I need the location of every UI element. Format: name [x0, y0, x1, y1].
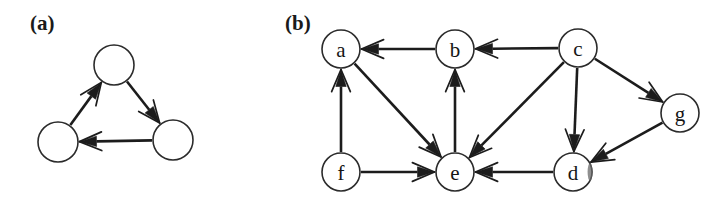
panel-b-node-e[interactable]: e	[436, 153, 474, 191]
scan-artifact	[588, 163, 593, 181]
node-circle[interactable]	[153, 120, 193, 160]
panel-b-node-b[interactable]: b	[436, 30, 474, 68]
node-label: f	[338, 161, 345, 185]
figure-background	[0, 0, 726, 206]
panel-b-node-d[interactable]: d	[554, 153, 592, 191]
panel-a-node-a-left[interactable]	[38, 122, 78, 162]
node-circle[interactable]	[94, 45, 134, 85]
node-label: b	[450, 38, 461, 62]
panel-b-node-c[interactable]: c	[559, 29, 597, 67]
panel-b-node-a[interactable]: a	[322, 30, 360, 68]
panel-a-node-a-top[interactable]	[94, 45, 134, 85]
node-label: c	[573, 37, 582, 61]
panel-a-caption: (a)	[30, 11, 55, 35]
edge-shaft	[492, 48, 558, 49]
panel-b-caption: (b)	[285, 11, 311, 35]
node-label: a	[336, 38, 346, 62]
figure-canvas: (a) (b) abcgfed	[0, 0, 726, 206]
node-circle[interactable]	[38, 122, 78, 162]
node-label: g	[675, 102, 686, 126]
node-label: d	[568, 161, 579, 185]
panel-a-node-a-right[interactable]	[153, 120, 193, 160]
node-label: e	[450, 161, 459, 185]
panel-b-node-f[interactable]: f	[322, 153, 360, 191]
edge-shaft	[96, 140, 152, 141]
panel-b-node-g[interactable]: g	[661, 94, 699, 132]
